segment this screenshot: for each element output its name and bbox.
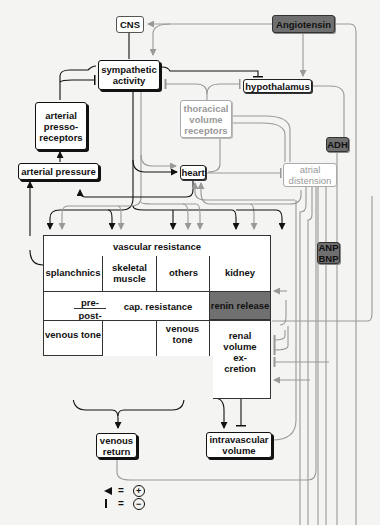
heart-node: heart [180,165,206,180]
divider [102,321,103,355]
divider [156,321,157,357]
skeletal-muscle-cell: skeletal muscle [103,254,156,291]
intravascular-volume-node: intravascular volume [206,432,272,458]
venous-tone-2-cell: venous tone [156,321,209,347]
angiotensin-node: Angiotensin [272,15,335,33]
minus-circle-icon: − [133,498,145,510]
others-cell: others [157,254,210,291]
anp-bnp-node: ANP BNP [317,242,340,264]
equals-sign: = [118,485,124,496]
hypothalamus-node: hypothalamus [243,79,312,93]
grid-open-area [43,356,213,400]
splanchnics-cell: splanchnics [44,254,102,291]
cap-resistance-label: cap. resistance [108,292,208,320]
sympathetic-activity-node: sympathetic activity [98,60,160,90]
legend-inhibition: = − [118,498,145,510]
equals-sign: = [118,498,124,509]
vascular-resistance-label: vascular resistance [44,238,270,254]
plus-circle-icon: + [133,485,145,497]
kidney-cell: kidney [210,254,270,291]
renin-release-cell: renin release [209,291,271,320]
adh-node: ADH [326,137,349,152]
arterial-pressure-node: arterial pressure [18,163,99,180]
pre-label: pre- [72,296,108,308]
arterial-pressoreceptors-node: arterial presso-receptors [35,102,87,150]
thoracical-volume-receptors-node: thoracical volume receptors [180,100,232,138]
cns-node: CNS [116,16,144,33]
venous-return-node: venous return [96,433,137,458]
venous-tone-1-cell: venous tone [44,321,102,347]
legend-activation: = + [118,485,145,497]
renal-volume-excretion-cell: renal volume ex-cretion [220,328,260,376]
atrial-distension-node: atrial distension [283,163,337,187]
